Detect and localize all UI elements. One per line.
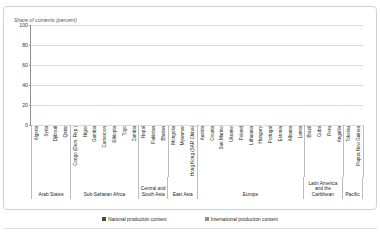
category-label-cell: Portugal <box>265 125 275 177</box>
category-label-cell: Brazil <box>304 125 314 177</box>
region-group-label: Central and South Asia <box>138 177 168 199</box>
bar-slot[interactable] <box>99 25 109 125</box>
category-label-cell: San Marino <box>217 125 227 177</box>
x-axis-tick-label: Pakistan <box>151 126 156 144</box>
x-axis-tick-label: Poland <box>238 126 243 140</box>
bar-slot[interactable] <box>51 25 61 125</box>
category-label-cell: Qatar <box>60 125 70 177</box>
x-axis-tick-label: Croatia <box>209 126 214 141</box>
region-band: Arab StatesSub-Saharan AfricaCentral and… <box>31 177 363 199</box>
bar-slot[interactable] <box>304 25 314 125</box>
category-label-cell: Poland <box>236 125 246 177</box>
bar-slot[interactable] <box>158 25 168 125</box>
category-label-cell: Togo <box>119 125 129 177</box>
category-label-cell: Cameroon <box>99 125 109 177</box>
category-label-cell: Peru <box>324 125 334 177</box>
footer-divider <box>3 228 377 229</box>
bar-slot[interactable] <box>109 25 119 125</box>
category-label-cell: Anguilla <box>334 125 344 177</box>
bar-slot[interactable] <box>31 25 41 125</box>
legend-swatch-national <box>102 217 106 221</box>
x-axis-tick-label: Congo (Dem. Rep.) <box>72 126 77 166</box>
x-axis-tick-label: Cuba <box>317 126 322 137</box>
category-label-cell: Ethiopia <box>109 125 119 177</box>
plot-area: 020406080100 <box>31 25 363 125</box>
x-axis-tick-label: Myanmar <box>180 126 185 145</box>
category-label-cell: Djibouti <box>51 125 61 177</box>
category-label-cell: Gambia <box>90 125 100 177</box>
bar-slot[interactable] <box>344 25 354 125</box>
x-axis-tick-label: Niger <box>82 126 87 137</box>
y-axis-tick-label: 60 <box>22 62 28 68</box>
x-axis-tick-label: Djibouti <box>53 126 58 141</box>
category-label-cell: Lithuania <box>246 125 256 177</box>
y-axis-tick-label: 20 <box>22 102 28 108</box>
category-label-cell: Austria <box>197 125 207 177</box>
region-group-text: Sub-Saharan Africa <box>84 192 126 198</box>
region-group-text: East Asia <box>173 192 193 198</box>
category-label-cell: Syria <box>41 125 51 177</box>
category-label-cell: Algeria <box>31 125 41 177</box>
bar-slot[interactable] <box>177 25 187 125</box>
x-axis-tick-label: Brazil <box>307 126 312 138</box>
bar-slot[interactable] <box>41 25 51 125</box>
legend-item[interactable]: National production content <box>102 217 166 222</box>
bar-slot[interactable] <box>256 25 266 125</box>
region-separator <box>197 125 198 177</box>
x-axis-tick-label: Lithuania <box>248 126 253 145</box>
category-label-cell: Estonia <box>275 125 285 177</box>
bar-slot[interactable] <box>285 25 295 125</box>
x-axis-tick-label: Gambia <box>92 126 97 142</box>
x-axis-tick-label: Cameroon <box>102 126 107 147</box>
region-group-label: Pacific <box>342 177 363 199</box>
bar-slot[interactable] <box>90 25 100 125</box>
category-label-cell: Niger <box>80 125 90 177</box>
bar-slot[interactable] <box>295 25 305 125</box>
chart-legend: National production contentInternational… <box>0 212 380 226</box>
bar-slot[interactable] <box>226 25 236 125</box>
region-group-label: Sub-Saharan Africa <box>70 177 138 199</box>
bar-slot[interactable] <box>80 25 90 125</box>
bar-slot[interactable] <box>207 25 217 125</box>
bar-slot[interactable] <box>70 25 80 125</box>
figure-container: Share of contents (percent) 020406080100… <box>0 0 380 232</box>
y-axis-tick-label: 100 <box>19 22 28 28</box>
legend-item[interactable]: International production content <box>205 217 278 222</box>
x-axis-tick-label: Hungary <box>258 126 263 143</box>
region-group-text: Pacific <box>345 192 359 198</box>
x-axis-tick-label: Tokelau <box>346 126 351 142</box>
category-label-cell: Tokelau <box>344 125 354 177</box>
bar-slot[interactable] <box>353 25 363 125</box>
bar-slot[interactable] <box>129 25 139 125</box>
category-label-cell: Nepal <box>138 125 148 177</box>
bar-slot[interactable] <box>324 25 334 125</box>
bar-slot[interactable] <box>217 25 227 125</box>
region-group-text: Europe <box>243 192 258 198</box>
bar-slot[interactable] <box>314 25 324 125</box>
bar-slot[interactable] <box>275 25 285 125</box>
category-label-cell: Hong Kong (SAR China) <box>187 125 197 177</box>
x-axis-tick-label: Nepal <box>141 126 146 138</box>
x-axis-tick-label: Albania <box>287 126 292 141</box>
region-group-label: Arab States <box>31 177 70 199</box>
legend-swatch-international <box>205 217 209 221</box>
region-group-label: Europe <box>197 177 303 199</box>
chart-panel: Share of contents (percent) 020406080100… <box>3 6 377 210</box>
x-axis-tick-label: Syria <box>43 126 48 136</box>
x-axis-tick-label: Togo <box>121 126 126 136</box>
bar-slot[interactable] <box>148 25 158 125</box>
bar-slot[interactable] <box>138 25 148 125</box>
bar-slot[interactable] <box>334 25 344 125</box>
region-group-text: Central and South Asia <box>139 186 168 198</box>
bar-slot[interactable] <box>168 25 178 125</box>
y-axis-tick-label: 80 <box>22 42 28 48</box>
bar-slot[interactable] <box>236 25 246 125</box>
bar-slot[interactable] <box>60 25 70 125</box>
bar-slot[interactable] <box>119 25 129 125</box>
x-axis-tick-label: Hong Kong (SAR China) <box>190 126 195 176</box>
bar-slot[interactable] <box>265 25 275 125</box>
bar-slot[interactable] <box>197 25 207 125</box>
x-axis-tick-label: Austria <box>199 126 204 140</box>
bar-slot[interactable] <box>246 25 256 125</box>
bar-slot[interactable] <box>187 25 197 125</box>
